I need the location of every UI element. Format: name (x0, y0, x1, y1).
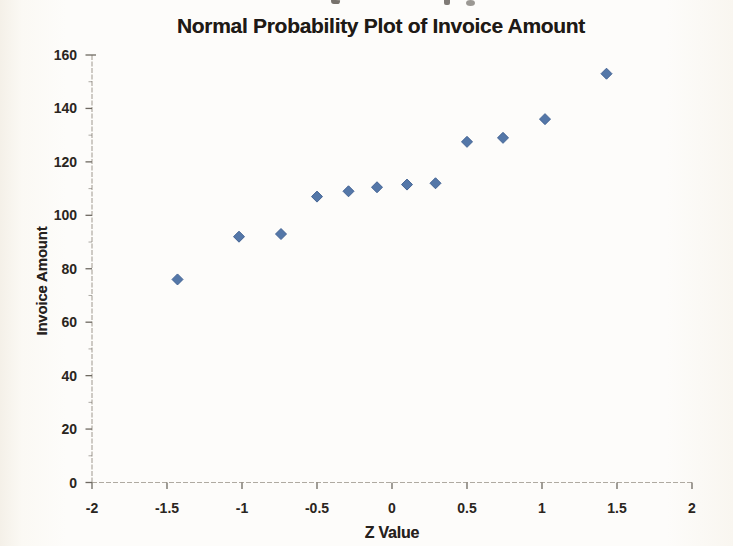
data-point (402, 179, 413, 190)
plot-area: -2-1.5-1-0.500.511.520204060801001201401… (0, 0, 733, 546)
data-point (312, 191, 323, 202)
data-point (462, 136, 473, 147)
y-tick-label: 140 (54, 100, 78, 116)
data-point (540, 114, 551, 125)
data-point (430, 178, 441, 189)
y-tick-label: 40 (61, 368, 77, 384)
data-point (343, 186, 354, 197)
x-tick-label: 1 (538, 500, 546, 516)
data-point (498, 132, 509, 143)
x-tick-label: 1.5 (607, 500, 627, 516)
y-tick-label: 100 (54, 207, 78, 223)
x-tick-label: 0.5 (457, 500, 477, 516)
x-tick-label: -1 (236, 500, 249, 516)
x-tick-label: -0.5 (305, 500, 329, 516)
x-tick-label: -2 (86, 500, 99, 516)
data-point (372, 182, 383, 193)
y-tick-label: 80 (61, 261, 77, 277)
x-tick-label: -1.5 (155, 500, 179, 516)
y-tick-label: 120 (54, 154, 78, 170)
scanned-chart-page: Normal Probability Plot of Invoice Amoun… (0, 0, 733, 546)
x-tick-label: 0 (388, 500, 396, 516)
y-tick-label: 0 (69, 475, 77, 491)
data-point (276, 229, 287, 240)
y-tick-label: 20 (61, 421, 77, 437)
y-tick-label: 60 (61, 314, 77, 330)
data-point (234, 231, 245, 242)
data-point (172, 274, 183, 285)
data-point (601, 68, 612, 79)
x-tick-label: 2 (688, 500, 696, 516)
y-tick-label: 160 (54, 47, 78, 63)
